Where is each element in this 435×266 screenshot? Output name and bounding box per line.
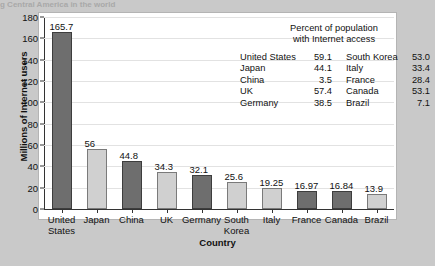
- annotation-country-name: China: [240, 75, 302, 86]
- annotation-spacer: [332, 63, 346, 74]
- annotation-country-value: 28.4: [402, 75, 430, 86]
- annotation-country-name: France: [346, 75, 402, 86]
- gridline: [44, 145, 394, 146]
- bar: 44.8: [122, 161, 142, 209]
- bar-value-label: 165.7: [50, 21, 74, 32]
- x-tick-mark: [202, 209, 203, 213]
- x-tick-mark: [272, 209, 273, 213]
- bar-value-label: 44.8: [120, 150, 139, 161]
- annotation-country-name: United States: [240, 52, 302, 63]
- annotation-country-name: Germany: [240, 98, 302, 109]
- annotation-spacer: [332, 75, 346, 86]
- y-tick-label: 80: [27, 118, 38, 129]
- annotation-country-value: 53.1: [402, 86, 430, 97]
- x-tick-mark: [307, 209, 308, 213]
- x-tick-mark: [167, 209, 168, 213]
- page-caption-fragment: g Central America in the world: [0, 0, 404, 9]
- annotation-country-value: 44.1: [302, 63, 332, 74]
- annotation-spacer: [332, 52, 346, 63]
- annotation-country-name: South Korea: [346, 52, 402, 63]
- x-tick-mark: [97, 209, 98, 213]
- bar: 165.7: [52, 32, 72, 209]
- bar: 19.25: [262, 188, 282, 209]
- y-tick-mark: [40, 59, 44, 60]
- bar: 16.84: [332, 191, 352, 209]
- y-tick-mark: [40, 187, 44, 188]
- y-tick-mark: [40, 145, 44, 146]
- annotation-grid: United States59.1South Korea53.0Japan44.…: [240, 52, 435, 109]
- x-tick-mark: [132, 209, 133, 213]
- y-tick-mark: [40, 102, 44, 103]
- x-tick-mark: [62, 209, 63, 213]
- annotation-table: Percent of population with Internet acce…: [240, 23, 435, 109]
- y-tick-label: 100: [22, 97, 38, 108]
- annotation-title-line2: with Internet access: [240, 34, 428, 45]
- annotation-title-line1: Percent of population: [240, 23, 428, 34]
- annotation-country-value: 33.4: [402, 63, 430, 74]
- y-tick-label: 140: [22, 54, 38, 65]
- y-tick-label: 160: [22, 33, 38, 44]
- gridline: [44, 124, 394, 125]
- x-tick-mark: [342, 209, 343, 213]
- annotation-spacer: [332, 98, 346, 109]
- y-tick-mark: [40, 17, 44, 18]
- y-tick-mark: [40, 166, 44, 167]
- y-tick-mark: [40, 38, 44, 39]
- annotation-title: Percent of population with Internet acce…: [240, 23, 435, 45]
- y-tick-label: 120: [22, 76, 38, 87]
- plot-area: 020406080100120140160180 165.75644.834.3…: [44, 17, 394, 209]
- bar: 13.9: [367, 194, 387, 209]
- annotation-country-name: Brazil: [346, 98, 402, 109]
- bar: 56: [87, 149, 107, 209]
- y-tick-label: 40: [27, 161, 38, 172]
- bar-value-label: 13.9: [365, 183, 384, 194]
- chart-figure: Millions of Internet users 0204060801001…: [0, 9, 404, 266]
- annotation-country-name: UK: [240, 86, 302, 97]
- bar: 25.6: [227, 182, 247, 209]
- annotation-country-value: 57.4: [302, 86, 332, 97]
- annotation-country-name: Canada: [346, 86, 402, 97]
- y-tick-label: 20: [27, 182, 38, 193]
- y-tick-label: 180: [22, 12, 38, 23]
- y-axis-line: [44, 17, 45, 209]
- annotation-country-value: 3.5: [302, 75, 332, 86]
- annotation-country-value: 38.5: [302, 98, 332, 109]
- bar: 16.97: [297, 191, 317, 209]
- bar-value-label: 34.3: [155, 161, 174, 172]
- x-tick-label: Brazil: [355, 215, 398, 226]
- bar-value-label: 16.84: [330, 180, 354, 191]
- y-tick-mark: [40, 81, 44, 82]
- bar-value-label: 56: [85, 138, 96, 149]
- x-tick-mark: [237, 209, 238, 213]
- bar: 32.1: [192, 175, 212, 209]
- bar-value-label: 32.1: [190, 164, 209, 175]
- bar-value-label: 16.97: [295, 180, 319, 191]
- x-axis-title: Country: [38, 237, 397, 248]
- annotation-spacer: [332, 86, 346, 97]
- bar: 34.3: [157, 172, 177, 209]
- y-tick-mark: [40, 209, 44, 210]
- annotation-country-value: 53.0: [402, 52, 430, 63]
- x-tick-mark: [377, 209, 378, 213]
- gridline: [44, 17, 394, 18]
- annotation-country-name: Japan: [240, 63, 302, 74]
- bar-value-label: 25.6: [225, 171, 244, 182]
- y-tick-label: 60: [27, 140, 38, 151]
- annotation-country-value: 7.1: [402, 98, 430, 109]
- y-tick-label: 0: [33, 204, 38, 215]
- y-tick-mark: [40, 123, 44, 124]
- annotation-country-value: 59.1: [302, 52, 332, 63]
- bar-value-label: 19.25: [260, 177, 284, 188]
- annotation-country-name: Italy: [346, 63, 402, 74]
